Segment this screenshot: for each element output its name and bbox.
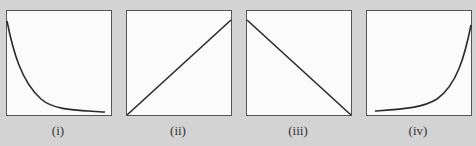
- decaying-curve-graph: [7, 11, 111, 115]
- panel-label-i: (i): [6, 123, 110, 139]
- rising-line-graph: [127, 11, 231, 115]
- panel-label-ii: (ii): [126, 123, 230, 139]
- growing-curve-graph: [367, 11, 471, 115]
- panel-label-iv: (iv): [366, 123, 470, 139]
- graph-panel-iii: [246, 10, 352, 116]
- graph-panel-ii: [126, 10, 232, 116]
- panel-label-iii: (iii): [246, 123, 350, 139]
- falling-line-graph: [247, 11, 351, 115]
- graph-panel-i: [6, 10, 112, 116]
- graph-panel-iv: [366, 10, 472, 116]
